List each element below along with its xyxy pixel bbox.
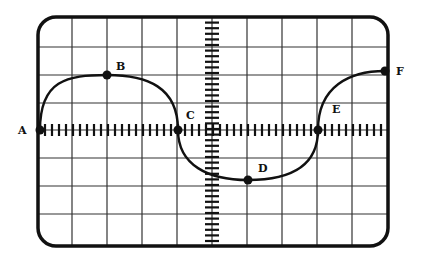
point-b-marker <box>103 71 112 80</box>
point-e-label: E <box>332 103 340 116</box>
point-b-label: B <box>116 60 125 73</box>
point-a-marker <box>36 126 45 135</box>
point-f-label: F <box>396 65 404 78</box>
point-e-marker <box>314 126 323 135</box>
point-d-marker <box>244 176 253 185</box>
point-c-marker <box>174 126 183 135</box>
point-a-label: A <box>17 124 27 137</box>
oscilloscope-diagram: ABCDEF <box>0 0 423 272</box>
point-c-label: C <box>186 109 195 122</box>
point-d-label: D <box>258 162 268 175</box>
point-f-marker <box>381 67 390 76</box>
axis-ticks <box>45 23 381 241</box>
